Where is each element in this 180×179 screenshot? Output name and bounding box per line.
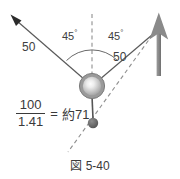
magnitude-label-left: 50 <box>22 41 35 53</box>
angle-right-value: 45 <box>108 30 120 42</box>
figure-caption: 図 5-40 <box>0 156 180 173</box>
angle-label-left: 45° <box>62 29 77 42</box>
fraction: 100 1.41 <box>16 98 45 129</box>
degree-symbol-right: ° <box>120 28 123 37</box>
formula-result: 約71 <box>62 104 89 123</box>
ball-connector-line <box>92 96 93 119</box>
degree-symbol-left: ° <box>74 28 77 37</box>
angle-label-right: 45° <box>108 29 123 42</box>
left-vector-arrowhead <box>11 15 22 27</box>
figure-5-40: 45° 45° 50 50 100 1.41 = 約71 図 5-40 <box>0 0 180 179</box>
magnitude-label-right: 50 <box>113 51 126 63</box>
fraction-denominator: 1.41 <box>16 114 45 129</box>
resultant-arrow-shaft <box>157 33 161 76</box>
equals-sign: = <box>50 106 58 121</box>
resultant-formula: 100 1.41 = 約71 <box>16 98 89 129</box>
fraction-numerator: 100 <box>18 98 44 113</box>
angle-left-value: 45 <box>62 30 74 42</box>
figure-diagram <box>0 0 180 179</box>
main-ball-core <box>83 77 101 95</box>
